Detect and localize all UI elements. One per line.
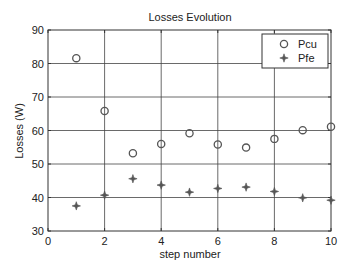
pfe-point bbox=[72, 202, 80, 210]
y-tick-label: 40 bbox=[32, 192, 44, 204]
x-axis-label: step number bbox=[159, 248, 220, 260]
pcu-point bbox=[243, 144, 250, 151]
x-tick-label: 10 bbox=[325, 235, 337, 247]
pfe-point bbox=[242, 183, 250, 191]
legend: PcuPfe bbox=[262, 34, 328, 68]
y-tick-label: 50 bbox=[32, 158, 44, 170]
losses-evolution-chart: Losses Evolution 024681030405060708090 s… bbox=[0, 0, 355, 271]
x-tick-label: 0 bbox=[45, 235, 51, 247]
pfe-point bbox=[214, 184, 222, 192]
y-tick-label: 70 bbox=[32, 91, 44, 103]
pfe-point bbox=[299, 194, 307, 202]
pcu-legend-label: Pcu bbox=[298, 38, 317, 50]
pfe-point bbox=[185, 188, 193, 196]
pfe-point bbox=[100, 191, 108, 199]
chart-title: Losses Evolution bbox=[148, 11, 231, 23]
y-tick-label: 90 bbox=[32, 24, 44, 36]
x-tick-label: 8 bbox=[271, 235, 277, 247]
x-tick-label: 6 bbox=[215, 235, 221, 247]
pfe-point bbox=[129, 175, 137, 183]
pcu-point bbox=[129, 150, 136, 157]
pcu-point bbox=[73, 55, 80, 62]
y-tick-label: 60 bbox=[32, 125, 44, 137]
pfe-legend-label: Pfe bbox=[298, 52, 315, 64]
pfe-point bbox=[270, 187, 278, 195]
data-points bbox=[72, 55, 335, 211]
x-tick-label: 4 bbox=[158, 235, 164, 247]
legend-box bbox=[262, 34, 328, 68]
x-tick-label: 2 bbox=[102, 235, 108, 247]
y-tick-label: 30 bbox=[32, 225, 44, 237]
y-axis-label: Losses (W) bbox=[13, 103, 25, 159]
pfe-point bbox=[157, 181, 165, 189]
y-tick-label: 80 bbox=[32, 58, 44, 70]
